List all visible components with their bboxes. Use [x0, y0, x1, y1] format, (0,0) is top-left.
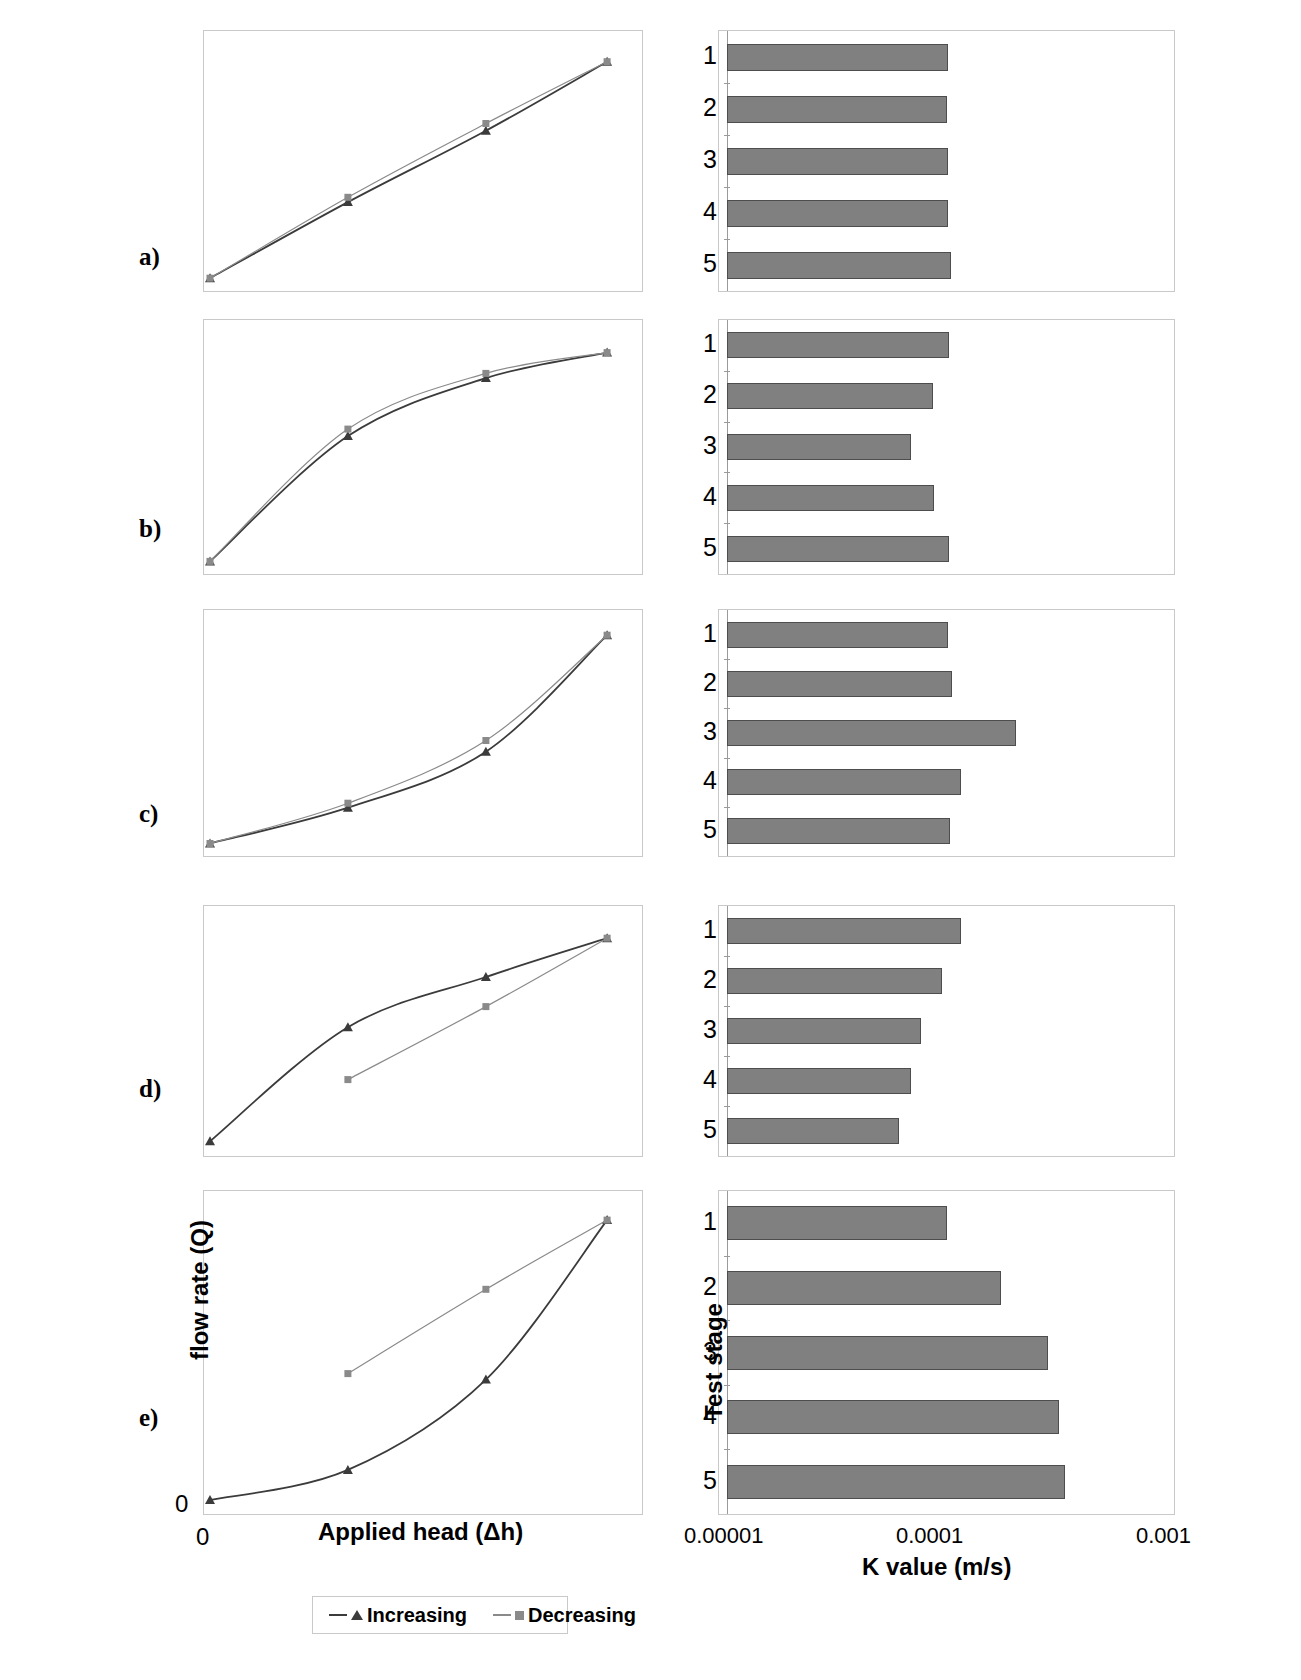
triangle-marker-icon — [343, 1022, 353, 1031]
axis-tick — [724, 83, 730, 84]
axis-tick — [724, 708, 730, 709]
axis-tick — [724, 1056, 730, 1057]
stage-label-5: 5 — [683, 1115, 717, 1144]
square-marker-icon — [604, 632, 611, 639]
bar-stage-2 — [727, 96, 947, 123]
panel-label-e: e) — [139, 1404, 158, 1432]
line-chart-b — [203, 319, 643, 575]
triangle-marker-icon — [481, 747, 491, 756]
bar-stage-1 — [727, 44, 948, 71]
right-y-axis-label: Test stage — [700, 1303, 728, 1420]
series-line-decreasing — [348, 1220, 607, 1374]
line-plot-svg-c — [204, 610, 642, 856]
series-line-increasing — [210, 1220, 607, 1500]
line-plot-svg-b — [204, 320, 642, 574]
bar-stage-4 — [727, 1068, 911, 1094]
axis-tick — [724, 523, 730, 524]
right-x-axis-label: K value (m/s) — [862, 1553, 1011, 1581]
stage-label-2: 2 — [683, 1272, 717, 1301]
bar-stage-4 — [727, 485, 934, 511]
right-x-tick-min: 0.00001 — [684, 1523, 764, 1549]
bar-stage-3 — [727, 720, 1016, 746]
stage-label-4: 4 — [683, 1065, 717, 1094]
triangle-marker-icon — [343, 1465, 353, 1474]
square-marker-icon — [207, 275, 214, 282]
legend-line-decreasing — [493, 1614, 511, 1616]
bar-stage-3 — [727, 148, 948, 175]
axis-tick — [724, 472, 730, 473]
axis-tick — [724, 758, 730, 759]
stage-label-4: 4 — [683, 197, 717, 226]
line-chart-c — [203, 609, 643, 857]
left-x-origin-label: 0 — [196, 1523, 209, 1551]
triangle-marker-icon — [481, 126, 491, 135]
square-marker-icon — [604, 1217, 611, 1224]
stage-label-3: 3 — [683, 145, 717, 174]
panel-label-b: b) — [139, 515, 161, 543]
axis-tick — [724, 1449, 730, 1450]
legend-item-decreasing: Decreasing — [493, 1604, 636, 1627]
stage-label-2: 2 — [683, 93, 717, 122]
series-line-decreasing — [210, 635, 607, 843]
square-marker-icon — [207, 558, 214, 565]
bar-stage-5 — [727, 252, 951, 279]
left-y-origin-label: 0 — [175, 1490, 188, 1518]
axis-tick — [724, 422, 730, 423]
bar-stage-1 — [727, 1206, 947, 1240]
stage-label-5: 5 — [683, 1466, 717, 1495]
bar-stage-5 — [727, 536, 949, 562]
line-plot-svg-a — [204, 31, 642, 291]
square-marker-icon — [482, 1003, 489, 1010]
axis-tick — [724, 659, 730, 660]
square-marker-icon — [604, 349, 611, 356]
right-x-tick-mid: 0.0001 — [896, 1523, 963, 1549]
bar-stage-1 — [727, 918, 961, 944]
square-marker-icon — [515, 1611, 524, 1620]
stage-label-4: 4 — [683, 482, 717, 511]
stage-label-1: 1 — [683, 1207, 717, 1236]
axis-tick — [724, 1106, 730, 1107]
square-marker-icon — [604, 58, 611, 65]
square-marker-icon — [344, 1370, 351, 1377]
bar-stage-3 — [727, 1018, 921, 1044]
stage-label-1: 1 — [683, 41, 717, 70]
square-marker-icon — [344, 194, 351, 201]
bar-stage-2 — [727, 1271, 1001, 1305]
bar-stage-3 — [727, 434, 911, 460]
axis-tick — [724, 956, 730, 957]
square-marker-icon — [482, 737, 489, 744]
bar-stage-2 — [727, 968, 942, 994]
triangle-marker-icon — [351, 1610, 363, 1620]
stage-label-1: 1 — [683, 329, 717, 358]
series-line-decreasing — [210, 353, 607, 562]
square-marker-icon — [604, 935, 611, 942]
line-chart-d — [203, 905, 643, 1157]
bar-stage-5 — [727, 1465, 1065, 1499]
bar-chart-b: 12345 — [718, 319, 1175, 575]
bar-stage-4 — [727, 1400, 1059, 1434]
stage-label-2: 2 — [683, 668, 717, 697]
legend-label-decreasing: Decreasing — [528, 1604, 636, 1627]
bar-chart-d: 12345 — [718, 905, 1175, 1157]
left-y-axis-label: flow rate (Q) — [186, 1220, 214, 1360]
legend-item-increasing: Increasing — [329, 1604, 467, 1627]
bar-stage-2 — [727, 671, 952, 697]
stage-label-5: 5 — [683, 249, 717, 278]
line-plot-svg-d — [204, 906, 642, 1156]
bar-chart-a: 12345 — [718, 30, 1175, 292]
stage-label-3: 3 — [683, 717, 717, 746]
legend-line-increasing — [329, 1614, 347, 1616]
left-x-axis-label: Applied head (Δh) — [318, 1518, 523, 1546]
stage-label-5: 5 — [683, 533, 717, 562]
axis-tick — [724, 371, 730, 372]
axis-tick — [724, 1256, 730, 1257]
square-marker-icon — [482, 120, 489, 127]
square-marker-icon — [482, 1286, 489, 1293]
bar-chart-c: 12345 — [718, 609, 1175, 857]
axis-tick — [724, 1006, 730, 1007]
bar-stage-4 — [727, 769, 961, 795]
series-line-increasing — [210, 635, 607, 843]
panel-label-d: d) — [139, 1075, 161, 1103]
bar-stage-2 — [727, 383, 933, 409]
stage-label-2: 2 — [683, 380, 717, 409]
